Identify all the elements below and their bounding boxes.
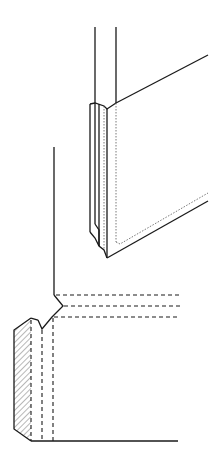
diagram-canvas [0,0,220,465]
upper-panel-view [90,27,208,258]
lower-seam-section [14,147,180,441]
